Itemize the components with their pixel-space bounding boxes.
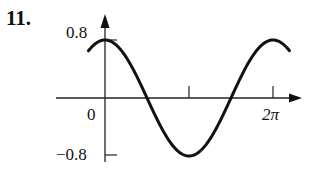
figure: 11. 0.8 0 −0.8 2π (0, 0, 320, 171)
cosine-plot (0, 0, 320, 171)
x-2pi-label: 2π (262, 106, 279, 123)
y-axis-arrow-icon (101, 14, 110, 28)
y-min-label: −0.8 (56, 146, 87, 163)
y-max-label: 0.8 (66, 24, 87, 41)
x-axis-arrow-icon (289, 94, 302, 103)
origin-label: 0 (87, 106, 96, 123)
